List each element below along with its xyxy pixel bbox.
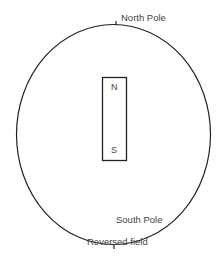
north-pole-label: North Pole — [121, 12, 166, 23]
diagram-caption: Reversed field — [87, 236, 148, 247]
earth-field-diagram — [0, 0, 220, 260]
south-pole-label: South Pole — [116, 214, 162, 225]
magnet-south-label: S — [111, 145, 117, 155]
magnet-north-label: N — [111, 82, 118, 92]
